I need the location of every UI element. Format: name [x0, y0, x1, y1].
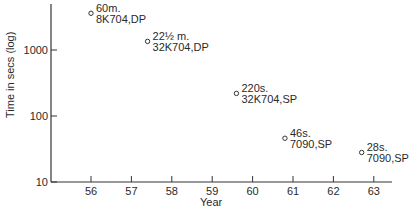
- x-tick-label: 58: [162, 185, 182, 197]
- x-tick-label: 56: [81, 185, 101, 197]
- data-point-marker: [145, 39, 149, 43]
- data-point-marker: [234, 91, 238, 95]
- chart-canvas: [0, 0, 420, 215]
- x-tick-label: 60: [243, 185, 263, 197]
- data-point-annotation: 220s.32K704,SP: [241, 83, 297, 105]
- y-tick-label: 10: [8, 176, 48, 188]
- data-point-annotation: 22½ m.32K704,DP: [153, 31, 209, 53]
- data-point-marker: [89, 11, 93, 15]
- data-point-marker: [359, 150, 363, 154]
- y-axis-label: Time in secs (log): [4, 32, 16, 118]
- data-point-annotation: 28s.7090,SP: [367, 142, 409, 164]
- x-ticks: [91, 176, 374, 182]
- data-point-marker: [283, 136, 287, 140]
- x-axis-label: Year: [200, 196, 222, 208]
- y-ticks: [51, 50, 57, 182]
- x-tick-label: 63: [364, 185, 384, 197]
- data-point-annotation: 46s.7090,SP: [290, 128, 332, 150]
- data-point-annotation: 60m.8K704,DP: [96, 3, 146, 25]
- x-tick-label: 62: [323, 185, 343, 197]
- x-tick-label: 61: [283, 185, 303, 197]
- x-tick-label: 57: [121, 185, 141, 197]
